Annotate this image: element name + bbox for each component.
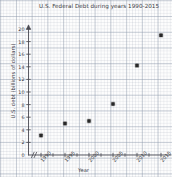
data-point-marker bbox=[87, 119, 90, 122]
data-point bbox=[63, 121, 68, 126]
y-axis-tick-label: 18 bbox=[13, 39, 25, 45]
y-axis-tick-label: 6 bbox=[13, 114, 25, 120]
data-point bbox=[39, 133, 44, 138]
y-axis-tick-label: 10 bbox=[13, 89, 25, 95]
y-axis-tick-label: 4 bbox=[13, 127, 25, 133]
data-point bbox=[135, 63, 140, 68]
y-axis-tick-label: 16 bbox=[13, 51, 25, 57]
axis-ticks-group bbox=[26, 29, 161, 157]
data-point-marker bbox=[135, 64, 138, 67]
data-point bbox=[159, 33, 164, 38]
data-point-marker bbox=[159, 34, 162, 37]
data-point bbox=[87, 119, 92, 124]
data-point bbox=[111, 102, 116, 107]
data-point-marker bbox=[63, 122, 66, 125]
y-axis-tick-label: 20 bbox=[13, 26, 25, 32]
plot-area bbox=[0, 0, 172, 177]
data-point-marker bbox=[39, 134, 42, 137]
data-points-group bbox=[39, 33, 164, 138]
data-point-marker bbox=[111, 102, 114, 105]
axes-group bbox=[26, 25, 171, 155]
y-axis-tick-label: 8 bbox=[13, 102, 25, 108]
y-axis-tick-label: 12 bbox=[13, 76, 25, 82]
y-axis-tick-label: 14 bbox=[13, 64, 25, 70]
y-axis-tick-label: 0 bbox=[13, 152, 25, 158]
y-axis-tick-label: 2 bbox=[13, 139, 25, 145]
chart-container: U.S. Federal Debt during years 1990-2015… bbox=[0, 0, 172, 177]
